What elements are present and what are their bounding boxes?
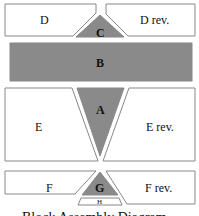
- label-b: B: [96, 56, 104, 70]
- label-d: D: [40, 13, 49, 27]
- block-assembly-diagram: D D rev. C B A E E rev. F G H F rev. Blo…: [0, 0, 199, 216]
- label-e-rev: E rev.: [146, 120, 174, 134]
- label-a: A: [96, 103, 105, 117]
- label-g: G: [95, 181, 104, 195]
- label-h: H: [97, 198, 102, 206]
- label-c: C: [96, 26, 105, 40]
- label-d-rev: D rev.: [140, 13, 169, 27]
- label-f-rev: F rev.: [145, 181, 172, 195]
- label-e: E: [35, 120, 42, 134]
- label-f: F: [46, 181, 53, 195]
- diagram-title: Block Assembly Diagram: [22, 210, 167, 216]
